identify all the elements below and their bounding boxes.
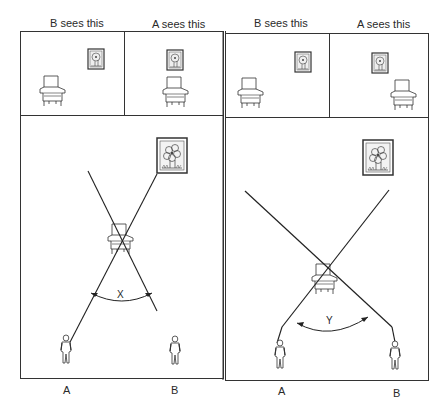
armchair-icon <box>312 264 337 294</box>
picture-icon <box>167 50 183 70</box>
left-observer-b-label: B <box>171 384 178 396</box>
sightline-a <box>245 191 392 327</box>
picture-icon <box>372 53 388 73</box>
framed-picture-icon <box>363 140 393 175</box>
observer-b-icon <box>170 336 180 364</box>
right-observer-a-label: A <box>278 385 285 397</box>
observer-a-icon <box>275 340 285 368</box>
picture-icon <box>88 49 104 69</box>
left-panel <box>20 31 224 379</box>
armchair-icon <box>40 76 65 106</box>
observer-b-icon <box>390 341 400 369</box>
framed-picture-icon <box>157 138 187 173</box>
left-observer-a-label: A <box>63 384 70 396</box>
armchair-icon <box>391 80 416 110</box>
right-panel <box>225 33 429 381</box>
perspective-diagram <box>0 0 446 410</box>
angle-label-y: Y <box>326 315 333 326</box>
armchair-icon <box>163 77 188 107</box>
picture-icon <box>295 52 311 72</box>
right-observer-b-label: B <box>393 387 400 399</box>
observer-a-icon <box>61 335 71 363</box>
angle-label-x: X <box>117 289 124 300</box>
sightline-a <box>68 174 157 346</box>
armchair-icon <box>238 78 263 108</box>
sightline-b <box>282 190 389 327</box>
